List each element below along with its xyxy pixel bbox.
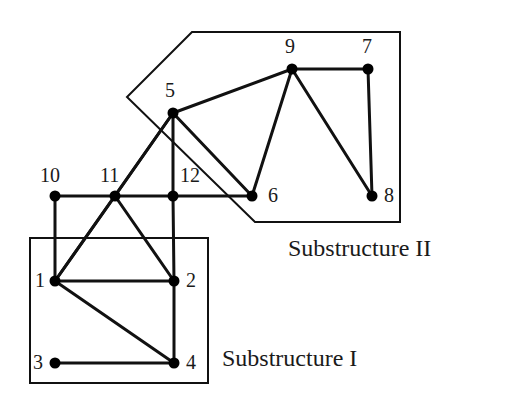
graph-edge-1-4 [55, 281, 174, 363]
graph-node-label-10: 10 [40, 165, 60, 185]
graph-node-4[interactable] [169, 358, 180, 369]
graph-edge-9-6 [252, 69, 292, 196]
substructure-two-outline [127, 32, 400, 222]
nodes-layer [50, 64, 378, 369]
graph-node-label-8: 8 [384, 185, 394, 205]
edges-layer [55, 69, 372, 363]
graph-node-label-9: 9 [285, 36, 295, 56]
graph-node-label-1: 1 [35, 270, 45, 290]
regions-layer [30, 32, 400, 383]
graph-node-label-2: 2 [186, 270, 196, 290]
graph-node-7[interactable] [363, 64, 374, 75]
graph-node-9[interactable] [287, 64, 298, 75]
graph-node-11[interactable] [110, 191, 121, 202]
graph-edge-9-8 [292, 69, 372, 196]
graph-node-label-5: 5 [165, 80, 175, 100]
caption-substructure-2: Substructure II [288, 236, 431, 260]
graph-edge-12-2 [173, 196, 174, 281]
graph-node-label-7: 7 [362, 36, 372, 56]
graph-node-8[interactable] [367, 191, 378, 202]
figure-root: 123456789101112 Substructure IISubstruct… [0, 0, 521, 418]
graph-node-label-3: 3 [33, 352, 43, 372]
graph-node-12[interactable] [168, 191, 179, 202]
graph-edge-5-9 [173, 69, 292, 113]
graph-node-10[interactable] [50, 191, 61, 202]
graph-edge-11-5 [115, 113, 173, 196]
graph-node-label-12: 12 [180, 165, 200, 185]
graph-node-label-6: 6 [268, 185, 278, 205]
caption-substructure-1: Substructure I [222, 346, 357, 370]
graph-node-label-4: 4 [186, 352, 196, 372]
graph-edge-7-8 [368, 69, 372, 196]
graph-node-label-11: 11 [100, 165, 119, 185]
graph-node-2[interactable] [169, 276, 180, 287]
graph-node-5[interactable] [168, 108, 179, 119]
graph-node-1[interactable] [50, 276, 61, 287]
graph-node-6[interactable] [247, 191, 258, 202]
graph-node-3[interactable] [50, 358, 61, 369]
